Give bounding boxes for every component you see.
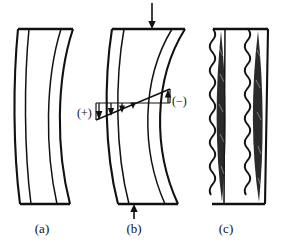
stress-label-negative: (−) bbox=[172, 95, 187, 107]
caption-panel-b: (b) bbox=[114, 222, 154, 235]
figure-background bbox=[0, 0, 283, 248]
stress-label-positive: (+) bbox=[77, 107, 92, 119]
caption-panel-c: (c) bbox=[206, 222, 246, 235]
caption-panel-a: (a) bbox=[22, 222, 62, 235]
figure-canvas bbox=[0, 0, 283, 248]
